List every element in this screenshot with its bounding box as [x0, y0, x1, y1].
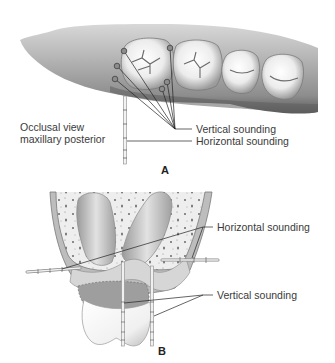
probe-point-icon	[114, 63, 120, 69]
probe-point-icon	[121, 48, 127, 54]
probe-horizontal-sounding	[123, 96, 127, 164]
premolar-2	[262, 54, 304, 99]
callout-horizontal-sounding-a: Horizontal sounding	[196, 135, 289, 147]
callout-vertical-sounding-a: Vertical sounding	[196, 123, 276, 135]
callout-vertical-sounding-b: Vertical sounding	[217, 289, 297, 301]
view-label-line2: maxillary posterior	[20, 133, 106, 145]
probe-point-icon	[167, 45, 173, 51]
dental-sounding-figure: Occlusal view maxillary posterior Vertic…	[0, 0, 335, 363]
panel-b: Horizontal sounding Vertical sounding B	[27, 192, 310, 357]
probe-point-icon	[164, 79, 170, 85]
panel-a: Occlusal view maxillary posterior Vertic…	[20, 24, 318, 176]
callout-horizontal-sounding-b: Horizontal sounding	[217, 221, 310, 233]
probe-point-icon	[159, 86, 165, 92]
premolar-1	[222, 50, 260, 93]
second-molar	[173, 40, 222, 90]
view-label-line1: Occlusal view	[20, 121, 85, 133]
probe-point-icon	[112, 76, 118, 82]
panel-letter-b: B	[158, 345, 166, 357]
panel-letter-a: A	[161, 164, 169, 176]
vertical-probe-left	[121, 262, 125, 346]
vertical-probe-right	[150, 266, 154, 346]
